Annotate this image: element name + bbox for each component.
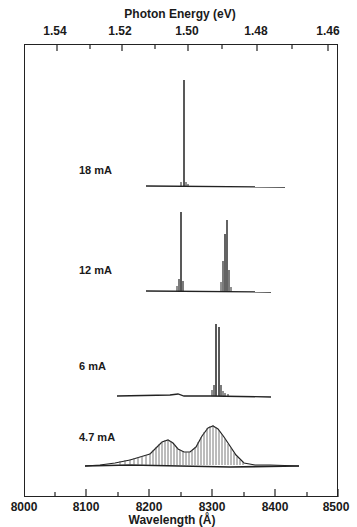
curve-6ma [117, 324, 271, 397]
bottom-tick-label: 8300 [199, 500, 226, 514]
bottom-ticks [55, 489, 338, 497]
curve-label-4-7ma: 4.7 mA [79, 431, 115, 443]
top-ticks [57, 44, 328, 51]
bottom-tick-label: 8100 [73, 500, 100, 514]
curve-12ma [146, 212, 271, 292]
curve-label-12ma: 12 mA [79, 264, 112, 276]
bottom-tick-label: 8000 [11, 500, 38, 514]
bottom-axis-title: Wavelength (Å) [129, 513, 216, 527]
bottom-tick-label: 8200 [136, 500, 163, 514]
curve-label-18ma: 18 mA [79, 164, 112, 176]
curve-18ma [146, 80, 285, 187]
curve-4-7ma [85, 425, 299, 467]
mode-lines [120, 425, 243, 465]
bottom-tick-label: 8400 [262, 500, 289, 514]
curve-label-6ma: 6 mA [79, 360, 106, 372]
bottom-tick-label: 8500 [323, 500, 350, 514]
